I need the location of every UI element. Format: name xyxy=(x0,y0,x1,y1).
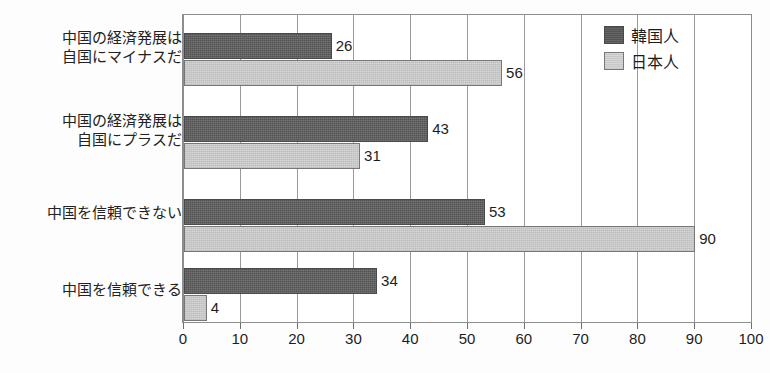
x-tick-label-100: 100 xyxy=(738,330,763,347)
category-label-2: 中国を信頼できない xyxy=(6,203,182,222)
x-tick-20 xyxy=(297,323,298,329)
x-tick-10 xyxy=(240,323,241,329)
dark-gray-swatch-icon xyxy=(604,26,624,44)
bar-value-jp-1: 31 xyxy=(364,143,381,169)
legend-label-jp: 日本人 xyxy=(631,49,679,73)
bar-value-jp-2: 90 xyxy=(699,226,716,252)
bar-value-kr-1: 43 xyxy=(432,116,449,142)
bar-chart: 中国の経済発展は 自国にマイナスだ 中国の経済発展は 自国にプラスだ 中国を信頼… xyxy=(0,0,770,373)
x-tick-0 xyxy=(183,323,184,329)
gridline-60 xyxy=(524,15,525,322)
legend-item-jp: 日本人 xyxy=(604,48,732,74)
category-label-1: 中国の経済発展は 自国にプラスだ xyxy=(6,111,182,149)
bar-value-kr-3: 34 xyxy=(381,268,398,294)
x-tick-label-80: 80 xyxy=(629,330,646,347)
x-tick-label-40: 40 xyxy=(402,330,419,347)
bar-value-jp-0: 56 xyxy=(506,60,523,86)
x-tick-30 xyxy=(353,323,354,329)
bar-jp-3 xyxy=(184,295,207,321)
x-tick-100 xyxy=(751,323,752,329)
x-tick-40 xyxy=(410,323,411,329)
bar-value-jp-3: 4 xyxy=(211,295,219,321)
bar-kr-0 xyxy=(184,33,332,59)
bar-kr-3 xyxy=(184,268,377,294)
category-label-3: 中国を信頼できる xyxy=(6,280,182,299)
x-tick-label-30: 30 xyxy=(345,330,362,347)
legend-item-kr: 韓国人 xyxy=(604,22,732,48)
bar-value-kr-2: 53 xyxy=(489,199,506,225)
chart-legend: 韓国人 日本人 xyxy=(604,22,732,74)
x-tick-label-10: 10 xyxy=(231,330,248,347)
gridline-100 xyxy=(751,15,752,322)
x-tick-90 xyxy=(694,323,695,329)
x-tick-label-0: 0 xyxy=(179,330,187,347)
bar-jp-2 xyxy=(184,226,695,252)
x-tick-label-70: 70 xyxy=(572,330,589,347)
bar-jp-0 xyxy=(184,60,502,86)
category-label-0: 中国の経済発展は 自国にマイナスだ xyxy=(6,28,182,66)
x-tick-80 xyxy=(637,323,638,329)
bar-kr-1 xyxy=(184,116,428,142)
x-tick-label-90: 90 xyxy=(686,330,703,347)
legend-label-kr: 韓国人 xyxy=(631,23,679,47)
light-gray-swatch-icon xyxy=(604,52,624,70)
x-tick-50 xyxy=(467,323,468,329)
bar-jp-1 xyxy=(184,143,360,169)
x-tick-label-20: 20 xyxy=(288,330,305,347)
x-tick-70 xyxy=(581,323,582,329)
bar-value-kr-0: 26 xyxy=(336,33,353,59)
x-axis: 0102030405060708090100 xyxy=(182,323,752,357)
x-tick-label-60: 60 xyxy=(515,330,532,347)
bar-kr-2 xyxy=(184,199,485,225)
gridline-70 xyxy=(581,15,582,322)
x-tick-60 xyxy=(524,323,525,329)
x-tick-label-50: 50 xyxy=(459,330,476,347)
